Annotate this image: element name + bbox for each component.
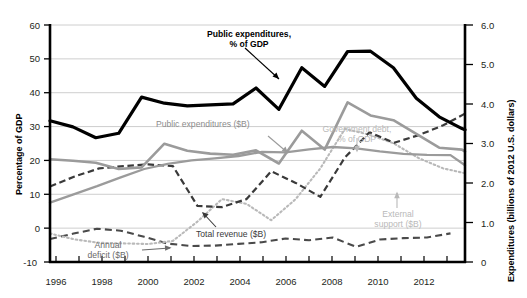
annotation-line-2: support ($B)	[360, 219, 436, 229]
annotation-total-revenue-sb: Total revenue ($B)	[196, 229, 266, 239]
annotation-public-expenditures-sb: Public expenditures ($B)	[156, 119, 250, 129]
annotation-line-2: % of GDP	[189, 39, 309, 49]
annotation-public-expenditures-pct-gdp: Public expenditures, % of GDP	[189, 29, 309, 49]
annotation-line-1: Public expenditures,	[189, 29, 309, 39]
annotation-line-1: Government debt,	[311, 124, 403, 134]
annotation-line-2: % of GDP	[311, 134, 403, 144]
annotation-line-1: External	[360, 209, 436, 219]
annotation-government-debt-pct-gdp: Government debt, % of GDP	[311, 124, 403, 144]
chart-container: Percentage of GDP Expenditures (billions…	[0, 0, 527, 298]
annotation-annual-deficit-sb: Annual deficit ($B)	[72, 240, 144, 260]
annotation-line-2: deficit ($B)	[72, 250, 144, 260]
annotation-external-support-sb: External support ($B)	[360, 209, 436, 229]
annotation-line-1: Annual	[72, 240, 144, 250]
